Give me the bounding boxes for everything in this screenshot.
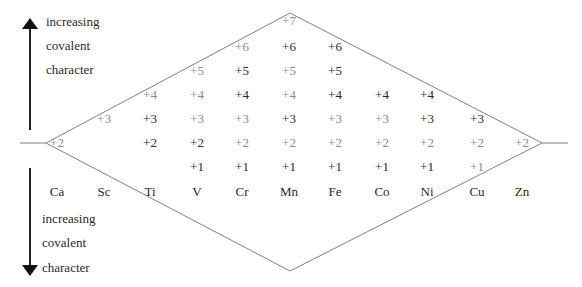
oxidation-state-fe-plus3: +3 (328, 112, 342, 125)
oxidation-state-fe-plus6: +6 (328, 40, 342, 53)
element-label-zn: Zn (515, 185, 529, 198)
oxidation-state-mn-plus3: +3 (282, 112, 296, 125)
oxidation-state-co-plus4: +4 (375, 88, 389, 101)
oxidation-state-sc-plus3: +3 (97, 112, 111, 125)
oxidation-state-fe-plus4: +4 (328, 88, 342, 101)
oxidation-state-mn-plus1: +1 (282, 160, 296, 173)
oxidation-state-ni-plus3: +3 (420, 112, 434, 125)
oxidation-state-ti-plus3: +3 (143, 112, 157, 125)
oxidation-state-ni-plus4: +4 (420, 88, 434, 101)
element-label-cu: Cu (469, 185, 484, 198)
oxidation-state-cr-plus3: +3 (235, 112, 249, 125)
oxidation-state-ca-plus2: +2 (50, 136, 64, 149)
oxidation-state-cr-plus1: +1 (235, 160, 249, 173)
oxidation-state-co-plus1: +1 (375, 160, 389, 173)
top-note-line-3: character (46, 63, 94, 76)
down-arrow-icon (22, 168, 38, 276)
top-note-line-2: covalent (46, 39, 90, 52)
oxidation-state-fe-plus2: +2 (328, 136, 342, 149)
oxidation-state-cr-plus5: +5 (235, 64, 249, 77)
bottom-note-line-1: increasing (42, 212, 95, 225)
oxidation-state-ti-plus4: +4 (143, 88, 157, 101)
oxidation-state-ni-plus1: +1 (420, 160, 434, 173)
top-note-line-1: increasing (46, 15, 99, 28)
bottom-note-line-3: character (42, 261, 90, 274)
oxidation-state-mn-plus6: +6 (282, 40, 296, 53)
oxidation-state-cr-plus4: +4 (235, 88, 249, 101)
oxidation-state-ti-plus2: +2 (143, 136, 157, 149)
oxidation-state-v-plus4: +4 (190, 88, 204, 101)
element-label-v: V (192, 185, 201, 198)
oxidation-state-cu-plus2: +2 (470, 136, 484, 149)
oxidation-state-mn-plus7: +7 (282, 14, 296, 27)
oxidation-state-diagram: increasing covalent character increasing… (0, 0, 582, 287)
oxidation-state-v-plus3: +3 (190, 112, 204, 125)
oxidation-state-ni-plus2: +2 (420, 136, 434, 149)
oxidation-state-cr-plus6: +6 (235, 40, 249, 53)
element-label-sc: Sc (98, 185, 111, 198)
oxidation-state-co-plus2: +2 (375, 136, 389, 149)
element-label-fe: Fe (329, 185, 342, 198)
oxidation-state-mn-plus4: +4 (282, 88, 296, 101)
element-label-ca: Ca (50, 185, 64, 198)
oxidation-state-fe-plus5: +5 (328, 64, 342, 77)
element-label-cr: Cr (236, 185, 249, 198)
oxidation-state-cu-plus1: +1 (470, 160, 484, 173)
bottom-note-line-2: covalent (42, 236, 86, 249)
oxidation-state-cu-plus3: +3 (470, 112, 484, 125)
oxidation-state-co-plus3: +3 (375, 112, 389, 125)
element-label-ni: Ni (421, 185, 434, 198)
oxidation-state-v-plus2: +2 (190, 136, 204, 149)
oxidation-state-v-plus1: +1 (190, 160, 204, 173)
up-arrow-icon (22, 18, 38, 130)
oxidation-state-fe-plus1: +1 (328, 160, 342, 173)
element-label-co: Co (374, 185, 389, 198)
oxidation-state-zn-plus2: +2 (515, 136, 529, 149)
element-label-mn: Mn (280, 185, 298, 198)
oxidation-state-mn-plus5: +5 (282, 64, 296, 77)
oxidation-state-v-plus5: +5 (190, 64, 204, 77)
oxidation-state-cr-plus2: +2 (235, 136, 249, 149)
oxidation-state-mn-plus2: +2 (282, 136, 296, 149)
element-label-ti: Ti (144, 185, 155, 198)
